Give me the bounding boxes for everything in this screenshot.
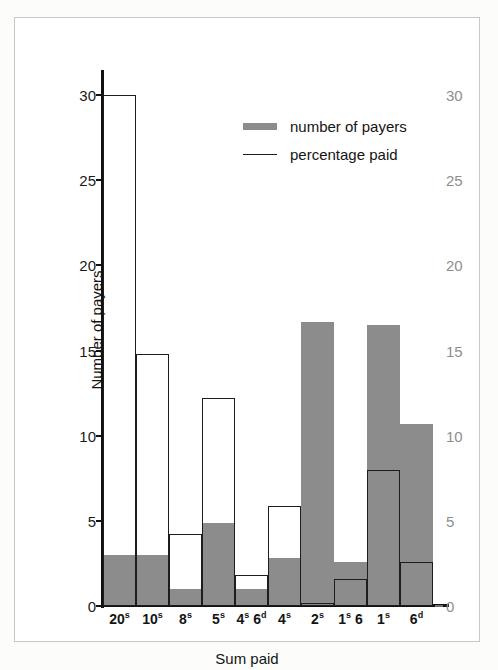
y-tick-right-5: 5 — [446, 513, 454, 528]
outline-percentage-paid-4s — [268, 506, 301, 606]
outline-percentage-paid-1s — [367, 470, 400, 606]
y-tick-right-20: 20 — [446, 258, 463, 273]
y-tick-left-0: 0 — [88, 599, 96, 614]
y-tickmark-left-15 — [96, 350, 103, 352]
y-tick-right-10: 10 — [446, 428, 463, 443]
y-tickmark-left-25 — [96, 179, 103, 181]
y-tick-left-25: 25 — [79, 173, 96, 188]
y-tick-right-0: 0 — [446, 599, 454, 614]
x-tick-label-1s6: 1s 6 — [334, 610, 367, 627]
figure-frame: Number of payers Percentage of whole sum… — [14, 17, 480, 642]
bar-slot-5s — [202, 78, 235, 606]
y-tick-right-25: 25 — [446, 173, 463, 188]
x-tick-label-2s: 2s — [301, 610, 334, 627]
outline-percentage-paid-5s — [202, 398, 235, 606]
y-tick-right-15: 15 — [446, 343, 463, 358]
legend-bar-swatch-icon — [243, 123, 277, 130]
y-tick-right-30: 30 — [446, 88, 463, 103]
outline-percentage-paid-2s — [301, 603, 334, 606]
legend-item-percentage-paid: percentage paid — [243, 146, 407, 163]
y-tickmark-right-0 — [435, 605, 443, 607]
x-tick-label-10s: 10s — [136, 610, 169, 627]
y-tick-left-30: 30 — [79, 88, 96, 103]
outline-percentage-paid-6d — [400, 562, 433, 606]
x-tick-label-1s: 1s — [367, 610, 400, 627]
figure-page: Number of payers Percentage of whole sum… — [0, 0, 498, 670]
x-axis-title: Sum paid — [15, 650, 479, 667]
legend-item-number-of-payers: number of payers — [243, 118, 407, 135]
y-tickmark-left-30 — [96, 94, 103, 96]
outline-percentage-paid-20s — [103, 95, 136, 606]
bar-slot-10s — [136, 78, 169, 606]
bar-slot-8s — [169, 78, 202, 606]
chart-legend: number of payers percentage paid — [243, 118, 407, 174]
legend-label-number-of-payers: number of payers — [290, 118, 407, 135]
bar-number-of-payers-2s — [301, 322, 334, 606]
x-tick-label-20s: 20s — [103, 610, 136, 627]
x-tick-label-5s: 5s — [202, 610, 235, 627]
outline-percentage-paid-8s — [169, 534, 202, 606]
outline-percentage-paid-1s6 — [334, 579, 367, 606]
x-tick-label-8s: 8s — [169, 610, 202, 627]
legend-label-percentage-paid: percentage paid — [290, 146, 398, 163]
legend-line-swatch-icon — [243, 154, 277, 155]
y-tick-left-15: 15 — [79, 343, 96, 358]
outline-percentage-paid-4s6d — [235, 575, 268, 606]
y-tickmark-left-0 — [96, 605, 103, 607]
x-tick-label-6d: 6d — [400, 610, 433, 627]
y-tickmark-left-10 — [96, 435, 103, 437]
y-tick-left-10: 10 — [79, 428, 96, 443]
y-tick-left-20: 20 — [79, 258, 96, 273]
y-tickmark-left-5 — [96, 520, 103, 522]
x-tick-label-4s: 4s — [268, 610, 301, 627]
outline-percentage-paid-10s — [136, 354, 169, 606]
bar-slot-20s — [103, 78, 136, 606]
y-tickmark-left-20 — [96, 264, 103, 266]
x-tick-label-4s6d: 4s 6d — [235, 610, 268, 627]
y-tick-left-5: 5 — [88, 513, 96, 528]
